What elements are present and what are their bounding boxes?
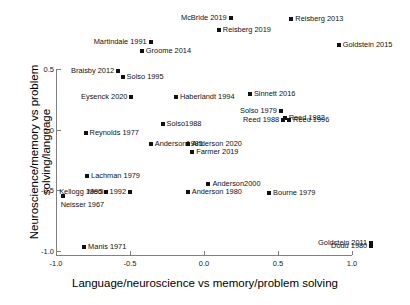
data-point-label: Bourne 1979 [273,189,315,196]
data-point-marker [289,17,293,21]
data-point-label: Groome 2014 [146,47,191,54]
data-point-marker [217,28,221,32]
data-point-marker [281,118,285,122]
data-point-marker [61,194,65,198]
data-point-label: Sinnett 2016 [254,91,296,98]
data-point-label: Reed 1988 [243,116,279,123]
data-point-label: Solso 1979 [240,108,277,115]
data-point-label: Martindale 1991 [94,39,147,46]
x-tick-mark [278,251,279,255]
x-tick-label: -0.5 [124,259,137,268]
data-point-label: Farmer 2019 [196,148,238,155]
data-point-marker [140,49,144,53]
y-tick-mark [57,130,61,131]
data-point-marker [149,142,153,146]
data-point-label: Reisberg 2019 [223,26,271,33]
data-point-label: Braisby 2012 [71,68,114,75]
data-point-label: Reisberg 2013 [295,16,343,23]
data-point-marker [287,118,291,122]
data-point-marker [337,43,341,47]
data-point-marker [174,95,178,99]
x-tick-label: 0.5 [273,259,283,268]
y-tick-mark [57,69,61,70]
x-tick-mark [352,251,353,255]
data-point-label: McBride 2019 [181,14,227,21]
data-point-marker [85,174,89,178]
data-point-marker [116,69,120,73]
data-point-label: Haberlandt 1994 [180,93,235,100]
data-point-label: Eysenck 2020 [81,93,127,100]
data-point-marker [82,245,86,249]
data-point-marker [121,75,125,79]
data-point-marker [128,190,132,194]
data-point-marker [84,131,88,135]
data-point-label: Anderson 1980 [192,188,242,195]
scatter-plot-figure: -1.0-0.50.00.51.00.50.0-0.5-1.0 McBride … [0,0,410,305]
x-tick-mark [130,251,131,255]
data-point-label: Medin 1992 [87,188,126,195]
x-axis-title: Language/neuroscience vs memory/problem … [0,277,410,289]
data-point-marker [129,95,133,99]
data-point-marker [149,40,153,44]
data-point-marker [206,182,210,186]
data-point-marker [186,190,190,194]
data-point-label: Reed 1996 [293,116,329,123]
x-axis-line [56,255,352,256]
data-point-label: Solso 1995 [127,74,164,81]
x-tick-mark [204,251,205,255]
data-point-label: Solso1988 [167,120,202,127]
data-point-label: Reynolds 1977 [90,130,139,137]
data-point-marker [267,191,271,195]
data-point-label: Dodd 1980 [331,242,367,249]
data-point-label: Goldstein 2015 [343,41,393,48]
data-point-marker [186,142,190,146]
plot-area: -1.0-0.50.00.51.00.50.0-0.5-1.0 McBride … [0,0,410,305]
x-tick-label: 1.0 [347,259,357,268]
data-point-marker [279,109,283,113]
data-point-marker [229,16,233,20]
data-point-marker [248,92,252,96]
y-axis-line [56,69,57,255]
y-axis-title: Neuroscience/memory vs problem solving/l… [28,27,52,277]
x-tick-label: 0.0 [199,259,209,268]
data-point-label: Lachman 1979 [91,172,140,179]
y-tick-mark [57,251,61,252]
data-point-label: Neisser 1967 [61,201,105,208]
data-point-label: Manis 1971 [88,244,126,251]
data-point-marker [161,122,165,126]
data-point-marker [369,244,373,248]
data-point-marker [190,150,194,154]
